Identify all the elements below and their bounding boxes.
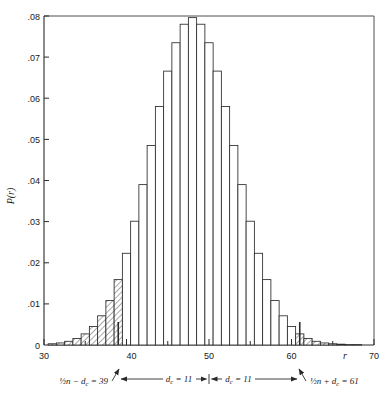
histogram-bar bbox=[197, 24, 205, 345]
histogram-bar bbox=[48, 344, 56, 345]
histogram-bar bbox=[263, 280, 271, 345]
histogram-bar bbox=[56, 343, 64, 345]
y-tick-label-02: .02 bbox=[27, 258, 40, 268]
histogram-bar bbox=[353, 345, 361, 346]
histogram-bar bbox=[271, 301, 279, 345]
y-tick-label-04: .04 bbox=[27, 176, 40, 186]
x-tick-label-50: 50 bbox=[204, 351, 214, 361]
histogram-bar bbox=[304, 338, 312, 345]
y-tick-label-05: .05 bbox=[27, 135, 40, 145]
left-critical-label: ½n − dc = 39 bbox=[59, 376, 108, 387]
histogram-bars bbox=[48, 18, 362, 345]
histogram-bar bbox=[106, 301, 114, 345]
histogram-bar bbox=[312, 341, 320, 345]
dimension-annotations: dc = 11 dc = 11 bbox=[121, 374, 297, 385]
y-tick-label-07: .07 bbox=[27, 53, 40, 63]
histogram-bar bbox=[73, 338, 81, 345]
dim-right-label: dc = 11 bbox=[225, 374, 251, 385]
x-tick-label-70: 70 bbox=[369, 351, 379, 361]
y-tick-label-01: .01 bbox=[27, 299, 40, 309]
histogram-bar bbox=[213, 71, 221, 345]
y-tick-label-0: 0 bbox=[35, 341, 40, 351]
histogram-figure: .08 .07 .06 .05 .04 .03 .02 .01 0 P(r) bbox=[0, 0, 390, 399]
x-tick-label-30: 30 bbox=[39, 351, 49, 361]
histogram-bar bbox=[122, 253, 130, 345]
y-tick-label-03: .03 bbox=[27, 217, 40, 227]
histogram-bar bbox=[139, 185, 147, 345]
binomial-distribution-chart: .08 .07 .06 .05 .04 .03 .02 .01 0 P(r) bbox=[0, 0, 390, 399]
histogram-bar bbox=[155, 106, 163, 345]
histogram-bar bbox=[337, 344, 345, 345]
histogram-bar bbox=[188, 18, 196, 345]
y-axis: .08 .07 .06 .05 .04 .03 .02 .01 0 bbox=[27, 12, 49, 351]
right-critical-label: ½n + dc = 61 bbox=[310, 376, 359, 387]
x-axis-title: r bbox=[343, 350, 347, 361]
histogram-bar bbox=[147, 146, 155, 345]
histogram-bar bbox=[180, 24, 188, 345]
histogram-bar bbox=[320, 343, 328, 345]
histogram-bar bbox=[205, 43, 213, 345]
y-tick-label-08: .08 bbox=[27, 12, 40, 22]
histogram-bar bbox=[246, 221, 254, 345]
histogram-bar bbox=[345, 345, 353, 346]
histogram-bar bbox=[131, 221, 139, 345]
histogram-bar bbox=[230, 146, 238, 345]
x-tick-label-60: 60 bbox=[286, 351, 296, 361]
histogram-bar bbox=[279, 316, 287, 345]
y-tick-label-06: .06 bbox=[27, 94, 40, 104]
histogram-bar bbox=[89, 326, 97, 345]
x-tick-label-40: 40 bbox=[127, 351, 137, 361]
dim-left-label: dc = 11 bbox=[166, 374, 192, 385]
histogram-bar bbox=[164, 71, 172, 345]
histogram-bar bbox=[172, 43, 180, 345]
histogram-bar bbox=[65, 341, 73, 345]
histogram-bar bbox=[221, 106, 229, 345]
histogram-bar bbox=[98, 316, 106, 345]
y-axis-title: P(r) bbox=[5, 187, 17, 205]
histogram-bar bbox=[238, 185, 246, 345]
histogram-bar bbox=[254, 253, 262, 345]
